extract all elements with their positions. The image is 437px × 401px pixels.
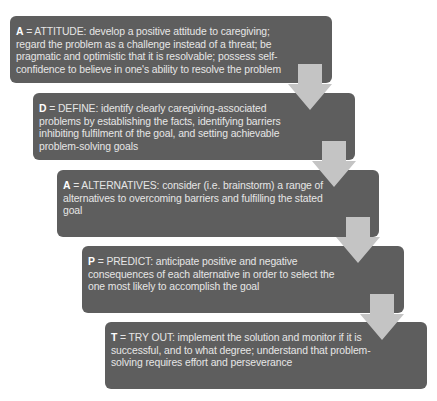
step-attitude-description: = ATTITUDE: develop a positive attitude … bbox=[16, 26, 281, 75]
step-try-out-text: T = TRY OUT: implement the solution and … bbox=[111, 332, 377, 370]
down-arrow-icon bbox=[288, 64, 332, 112]
step-attitude-box: A = ATTITUDE: develop a positive attitud… bbox=[10, 16, 332, 83]
step-try-out-description: = TRY OUT: implement the solution and mo… bbox=[111, 332, 371, 368]
step-define-text: D = DEFINE: identify clearly caregiving-… bbox=[39, 103, 305, 153]
step-predict-description: = PREDICT: anticipate positive and negat… bbox=[88, 256, 334, 292]
down-arrow-icon bbox=[336, 217, 380, 265]
step-attitude-text: A = ATTITUDE: develop a positive attitud… bbox=[16, 26, 282, 76]
step-alternatives-text: A = ALTERNATIVES: consider (i.e. brainst… bbox=[63, 180, 329, 218]
down-arrow-icon bbox=[312, 141, 356, 189]
step-predict-text: P = PREDICT: anticipate positive and neg… bbox=[88, 256, 354, 294]
step-predict-letter: P bbox=[88, 256, 95, 267]
down-arrow-icon bbox=[360, 294, 404, 342]
step-alternatives-description: = ALTERNATIVES: consider (i.e. brainstor… bbox=[63, 180, 323, 216]
step-define-description: = DEFINE: identify clearly caregiving-as… bbox=[39, 103, 281, 152]
